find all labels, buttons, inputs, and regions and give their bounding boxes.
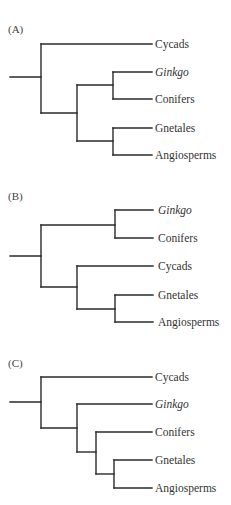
leaf-label-cycads: Cycads xyxy=(155,38,189,51)
leaf-label-ginkgo: Ginkgo xyxy=(155,66,189,79)
leaf-label-angiosperms: Angiosperms xyxy=(158,316,220,329)
tree-branches-b xyxy=(10,210,153,322)
leaf-label-gnetales: Gnetales xyxy=(155,454,196,466)
tree-panel-c: (C) Cycads Ginkgo Conifers Gnetales Angi… xyxy=(8,357,217,495)
leaf-label-ginkgo: Ginkgo xyxy=(155,398,189,411)
leaf-label-cycads: Cycads xyxy=(155,371,189,384)
panel-label-c: (C) xyxy=(8,357,23,370)
tree-branches-c xyxy=(10,377,152,488)
leaf-label-cycads: Cycads xyxy=(158,260,192,273)
panel-label-b: (B) xyxy=(8,190,23,203)
leaf-label-conifers: Conifers xyxy=(158,232,198,244)
tree-branches-a xyxy=(10,44,152,155)
leaf-label-angiosperms: Angiosperms xyxy=(155,482,217,495)
tree-panel-a: (A) Cycads Ginkgo Conifers Gnetales A xyxy=(8,23,217,162)
leaf-label-gnetales: Gnetales xyxy=(155,122,196,134)
leaf-label-angiosperms: Angiosperms xyxy=(155,149,217,162)
leaf-label-conifers: Conifers xyxy=(155,93,195,105)
panel-label-a: (A) xyxy=(8,23,24,36)
phylogeny-figure: (A) Cycads Ginkgo Conifers Gnetales A xyxy=(0,0,231,505)
leaf-label-gnetales: Gnetales xyxy=(158,289,199,301)
leaf-label-conifers: Conifers xyxy=(155,426,195,438)
leaf-label-ginkgo: Ginkgo xyxy=(158,204,192,217)
tree-panel-b: (B) Ginkgo Conifers Cycads Gnetales Angi… xyxy=(8,190,220,329)
